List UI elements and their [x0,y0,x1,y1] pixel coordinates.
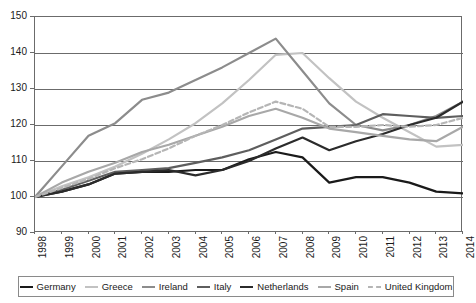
x-tick-mark [409,231,410,234]
x-tick-mark [88,231,89,234]
x-tick-label: 2006 [252,236,262,258]
x-tick-mark [435,231,436,234]
legend-item-spain[interactable]: Spain [318,282,359,292]
legend-swatch-icon [85,286,98,288]
y-tick-label: 130 [10,83,27,93]
y-tick-label: 90 [16,227,27,237]
legend-item-netherlands[interactable]: Netherlands [240,282,308,292]
x-tick-label: 2001 [118,236,128,258]
x-tick-label: 2003 [172,236,182,258]
y-tick-label: 140 [10,47,27,57]
legend-label: Ireland [159,282,188,292]
x-tick-mark [275,231,276,234]
legend-label: Greece [102,282,133,292]
legend-swatch-icon [368,286,381,288]
x-tick-label: 2014 [466,236,476,258]
legend-swatch-icon [20,286,33,288]
x-tick-mark [248,231,249,234]
x-tick-label: 2012 [413,236,423,258]
x-axis: 1998199920002001200220032004200520062007… [34,234,462,278]
legend-item-united-kingdom[interactable]: United Kingdom [368,282,453,292]
x-tick-mark [221,231,222,234]
legend-item-italy[interactable]: Italy [197,282,231,292]
x-tick-label: 2009 [332,236,342,258]
x-tick-label: 2005 [225,236,235,258]
legend-item-greece[interactable]: Greece [85,282,133,292]
x-tick-label: 2011 [386,236,396,258]
plot-area [34,16,462,232]
x-tick-label: 2008 [306,236,316,258]
x-tick-mark [462,231,463,234]
legend-label: United Kingdom [385,282,453,292]
legend-item-ireland[interactable]: Ireland [142,282,188,292]
x-tick-mark [61,231,62,234]
x-tick-label: 2002 [145,236,155,258]
legend-item-germany[interactable]: Germany [20,282,76,292]
x-tick-label: 2004 [199,236,209,258]
x-tick-mark [382,231,383,234]
y-tick-label: 100 [10,191,27,201]
y-axis: 90100110120130140150 [0,0,34,248]
series-line-spain [35,109,463,197]
x-tick-label: 2000 [92,236,102,258]
legend-swatch-icon [240,286,253,288]
x-tick-mark [328,231,329,234]
legend-label: Italy [214,282,231,292]
legend-swatch-icon [197,286,210,288]
x-tick-label: 2007 [279,236,289,258]
y-tick-label: 110 [11,155,27,165]
x-tick-mark [195,231,196,234]
legend-label: Netherlands [257,282,308,292]
legend-label: Germany [37,282,76,292]
x-tick-label: 2013 [439,236,449,258]
legend-swatch-icon [318,286,331,288]
y-tick-label: 120 [10,119,27,129]
x-tick-label: 1998 [38,236,48,258]
x-tick-mark [141,231,142,234]
legend-label: Spain [335,282,359,292]
x-tick-mark [34,231,35,234]
x-tick-label: 1999 [65,236,75,258]
x-tick-label: 2010 [359,236,369,258]
x-tick-mark [355,231,356,234]
legend-swatch-icon [142,286,155,288]
x-tick-mark [114,231,115,234]
plot-svg [35,17,463,233]
chart-legend: GermanyGreeceIrelandItalyNetherlandsSpai… [18,276,454,297]
y-tick-label: 150 [10,11,27,21]
x-tick-mark [302,231,303,234]
x-tick-mark [168,231,169,234]
